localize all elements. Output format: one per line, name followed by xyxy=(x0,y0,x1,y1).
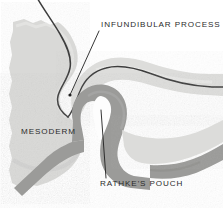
label-infundibular-process: INFUNDIBULAR PROCESS xyxy=(101,20,221,29)
anatomical-figure: INFUNDIBULAR PROCESS MESODERM RATHKE'S P… xyxy=(0,0,223,214)
leader-endpoint-infundibular-process xyxy=(68,93,71,96)
diagram-canvas: INFUNDIBULAR PROCESS MESODERM RATHKE'S P… xyxy=(0,0,223,214)
label-mesoderm: MESODERM xyxy=(21,127,76,136)
label-rathkes-pouch: RATHKE'S POUCH xyxy=(100,179,183,188)
